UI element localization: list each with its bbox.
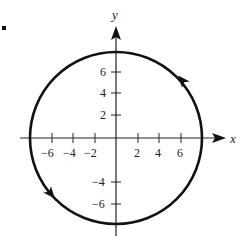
x-tick-label: −2 bbox=[84, 146, 97, 160]
y-tick-label: 4 bbox=[100, 86, 106, 100]
problem-number-dot bbox=[2, 26, 6, 30]
direction-arrow-upper-right-icon bbox=[174, 72, 189, 88]
y-axis-label: y bbox=[110, 7, 118, 22]
y-tick-label: 6 bbox=[100, 65, 106, 79]
y-tick-label: −6 bbox=[92, 197, 105, 211]
x-tick-label: 4 bbox=[155, 146, 161, 160]
circle-diagram: x y −6 −4 −2 2 4 6 6 4 2 −4 −6 bbox=[0, 0, 240, 249]
x-axis-label: x bbox=[229, 131, 236, 146]
y-tick-label: −4 bbox=[92, 175, 105, 189]
x-tick-label: 6 bbox=[177, 146, 183, 160]
x-tick-label: −4 bbox=[63, 146, 76, 160]
x-tick-label: −6 bbox=[41, 146, 54, 160]
y-tick-label: 2 bbox=[100, 108, 106, 122]
x-tick-label: 2 bbox=[134, 146, 140, 160]
